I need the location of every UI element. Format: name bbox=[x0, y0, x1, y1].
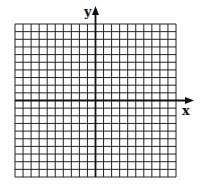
y-axis-arrow-icon bbox=[92, 6, 99, 15]
coordinate-grid bbox=[0, 0, 200, 191]
y-axis-label: y bbox=[84, 5, 92, 18]
x-axis-label: x bbox=[182, 104, 190, 117]
